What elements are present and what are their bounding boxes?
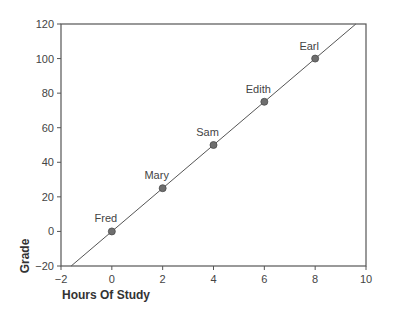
y-tick-label: 100 bbox=[36, 53, 54, 65]
x-tick-label: 2 bbox=[160, 273, 166, 285]
data-point bbox=[108, 228, 115, 235]
x-tick-label: −2 bbox=[55, 273, 68, 285]
x-axis-title: Hours Of Study bbox=[62, 288, 150, 302]
point-label: Sam bbox=[196, 126, 219, 138]
x-tick-label: 4 bbox=[210, 273, 216, 285]
point-label: Earl bbox=[299, 40, 319, 52]
y-tick-label: −20 bbox=[35, 260, 54, 272]
x-tick-label: 0 bbox=[109, 273, 115, 285]
y-tick-label: 0 bbox=[48, 225, 54, 237]
y-tick-label: 120 bbox=[36, 18, 54, 30]
data-point bbox=[261, 98, 268, 105]
y-tick-label: 40 bbox=[42, 156, 54, 168]
data-point bbox=[159, 185, 166, 192]
scatter-chart: −20020406080100120−20246810FredMarySamEd… bbox=[0, 0, 395, 319]
data-point bbox=[210, 142, 217, 149]
y-tick-label: 80 bbox=[42, 87, 54, 99]
data-point bbox=[312, 55, 319, 62]
x-tick-label: 10 bbox=[360, 273, 372, 285]
x-tick-label: 6 bbox=[261, 273, 267, 285]
y-tick-label: 60 bbox=[42, 122, 54, 134]
y-tick-label: 20 bbox=[42, 191, 54, 203]
point-label: Fred bbox=[95, 212, 118, 224]
y-axis-title: Grade bbox=[18, 238, 32, 273]
point-label: Mary bbox=[144, 169, 169, 181]
x-tick-label: 8 bbox=[312, 273, 318, 285]
point-label: Edith bbox=[246, 83, 271, 95]
